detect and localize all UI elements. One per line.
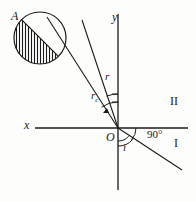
label-refracted-ray-r: r <box>105 71 109 82</box>
label-critical-ray-rc: rc <box>91 90 98 104</box>
label-region-two: II <box>170 95 178 107</box>
label-incident-angle-i: i <box>123 142 126 153</box>
label-y-axis: y <box>112 11 117 23</box>
optics-refraction-figure: A y x O r rc i 90° II I <box>0 0 196 202</box>
label-critical-ray-subscript: c <box>95 96 98 104</box>
label-right-angle-90: 90° <box>147 129 162 140</box>
ray-refracted-r <box>82 20 118 128</box>
label-region-one: I <box>174 137 178 149</box>
label-origin: O <box>106 131 115 143</box>
label-source-a: A <box>11 10 18 22</box>
label-x-axis: x <box>24 119 29 131</box>
